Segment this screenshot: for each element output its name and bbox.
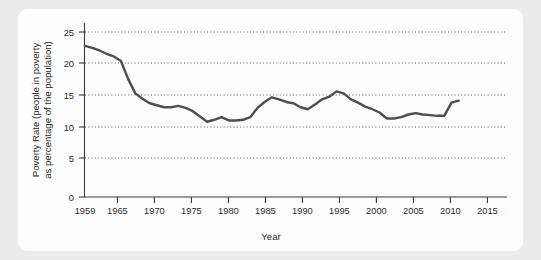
poverty-rate-series (85, 46, 459, 122)
y-axis-title-line1: Poverty Rate (people in poverty (30, 43, 41, 178)
x-tick-label-1959: 1959 (75, 206, 96, 216)
x-tick-label-2010: 2010 (440, 206, 461, 216)
x-tick-label-2015: 2015 (477, 206, 498, 216)
y-tick-label-10: 10 (64, 123, 74, 133)
x-tick-label-1990: 1990 (292, 206, 313, 216)
y-tick-label-5: 5 (69, 154, 74, 164)
x-tick-label-2000: 2000 (366, 206, 387, 216)
x-axis-title: Year (261, 231, 281, 242)
x-axis-ticks (117, 197, 487, 203)
y-tick-label-0: 0 (69, 193, 74, 203)
x-tick-label-2005: 2005 (403, 206, 424, 216)
y-axis-title-line2: as percentage of the population) (42, 41, 53, 179)
x-tick-label-1985: 1985 (255, 206, 276, 216)
x-tick-label-1995: 1995 (329, 206, 350, 216)
poverty-rate-line-chart: 25 20 15 10 5 0 1959 1965 1970 1975 1980… (18, 9, 523, 251)
x-tick-label-1980: 1980 (218, 206, 239, 216)
y-tick-label-25: 25 (64, 28, 74, 38)
x-tick-label-1965: 1965 (107, 206, 128, 216)
x-tick-label-1975: 1975 (181, 206, 202, 216)
chart-card: 25 20 15 10 5 0 1959 1965 1970 1975 1980… (18, 9, 523, 251)
y-tick-label-15: 15 (64, 91, 74, 101)
x-tick-label-1970: 1970 (144, 206, 165, 216)
y-tick-label-20: 20 (64, 59, 74, 69)
gridlines (85, 32, 507, 158)
